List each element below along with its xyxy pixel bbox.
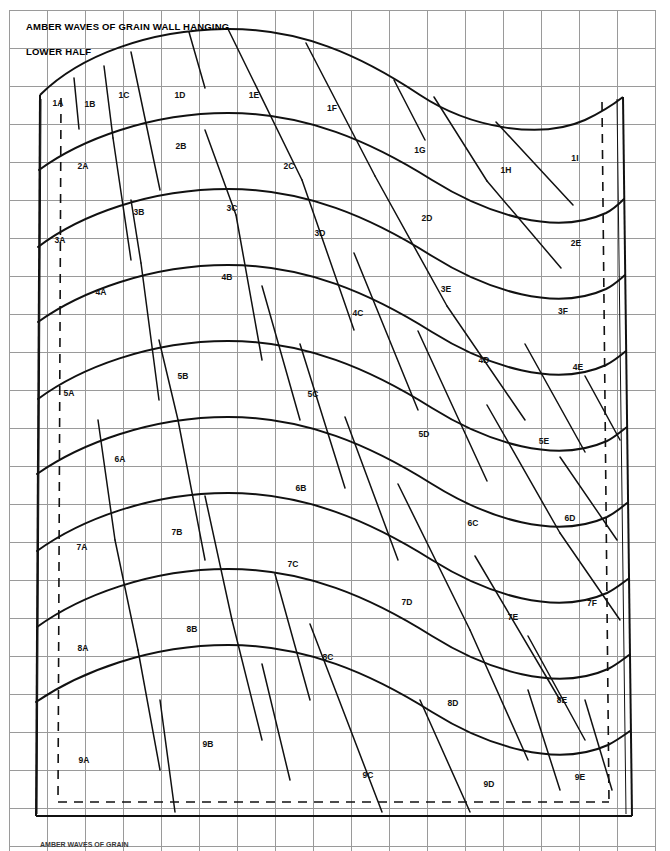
piece-label-2e: 2E: [571, 238, 582, 248]
piece-label-9c: 9C: [362, 770, 373, 780]
piece-label-9d: 9D: [483, 779, 494, 789]
piece-label-7c: 7C: [287, 559, 298, 569]
piece-label-1b: 1B: [84, 99, 95, 109]
piece-label-6b: 6B: [295, 483, 306, 493]
piece-label-5b: 5B: [177, 371, 188, 381]
piece-label-8d: 8D: [447, 698, 458, 708]
pattern-sheet: AMBER WAVES OF GRAIN WALL HANGING LOWER …: [0, 0, 670, 851]
piece-label-1f: 1F: [327, 103, 337, 113]
piece-label-3c: 3C: [226, 203, 237, 213]
piece-label-5d: 5D: [418, 429, 429, 439]
graph-grid: [9, 10, 655, 851]
piece-label-2b: 2B: [175, 141, 186, 151]
piece-label-7b: 7B: [171, 527, 182, 537]
piece-label-8e: 8E: [557, 695, 568, 705]
piece-label-6a: 6A: [114, 454, 125, 464]
piece-label-7f: 7F: [587, 598, 597, 608]
piece-label-3a: 3A: [54, 235, 65, 245]
sheet-footnote: AMBER WAVES OF GRAIN: [40, 841, 129, 848]
piece-label-3f: 3F: [558, 306, 568, 316]
piece-label-9e: 9E: [575, 772, 586, 782]
piece-division-lines: [74, 29, 620, 812]
pattern-drawing: [0, 0, 670, 851]
title-line-2: LOWER HALF: [26, 39, 356, 64]
piece-label-1g: 1G: [414, 145, 426, 155]
piece-label-2c: 2C: [283, 161, 294, 171]
piece-label-6c: 6C: [467, 518, 478, 528]
piece-label-1d: 1D: [174, 90, 185, 100]
piece-label-1i: 1I: [571, 153, 578, 163]
piece-label-3d: 3D: [314, 228, 325, 238]
pattern-outline: [36, 29, 632, 816]
piece-label-9b: 9B: [202, 739, 213, 749]
piece-label-4a: 4A: [95, 287, 106, 297]
piece-label-1h: 1H: [500, 165, 511, 175]
piece-label-1e: 1E: [249, 90, 260, 100]
piece-label-2d: 2D: [421, 213, 432, 223]
piece-label-8a: 8A: [77, 643, 88, 653]
piece-label-3b: 3B: [133, 207, 144, 217]
piece-label-2a: 2A: [77, 161, 88, 171]
piece-label-4b: 4B: [221, 272, 232, 282]
piece-label-4c: 4C: [352, 308, 363, 318]
piece-label-1c: 1C: [118, 90, 129, 100]
piece-label-5e: 5E: [539, 436, 550, 446]
sheet-title: AMBER WAVES OF GRAIN WALL HANGING LOWER …: [26, 14, 356, 64]
piece-label-1a: 1A: [52, 98, 63, 108]
piece-label-7a: 7A: [76, 542, 87, 552]
piece-label-4e: 4E: [573, 362, 584, 372]
piece-label-5a: 5A: [63, 388, 74, 398]
piece-label-7d: 7D: [401, 597, 412, 607]
piece-label-8c: 8C: [322, 652, 333, 662]
piece-label-8b: 8B: [186, 624, 197, 634]
piece-label-4d: 4D: [478, 355, 489, 365]
piece-label-6d: 6D: [564, 513, 575, 523]
title-line-1: AMBER WAVES OF GRAIN WALL HANGING: [26, 14, 356, 39]
piece-label-5c: 5C: [307, 389, 318, 399]
piece-label-3e: 3E: [441, 284, 452, 294]
piece-label-9a: 9A: [78, 755, 89, 765]
piece-label-7e: 7E: [508, 612, 519, 622]
